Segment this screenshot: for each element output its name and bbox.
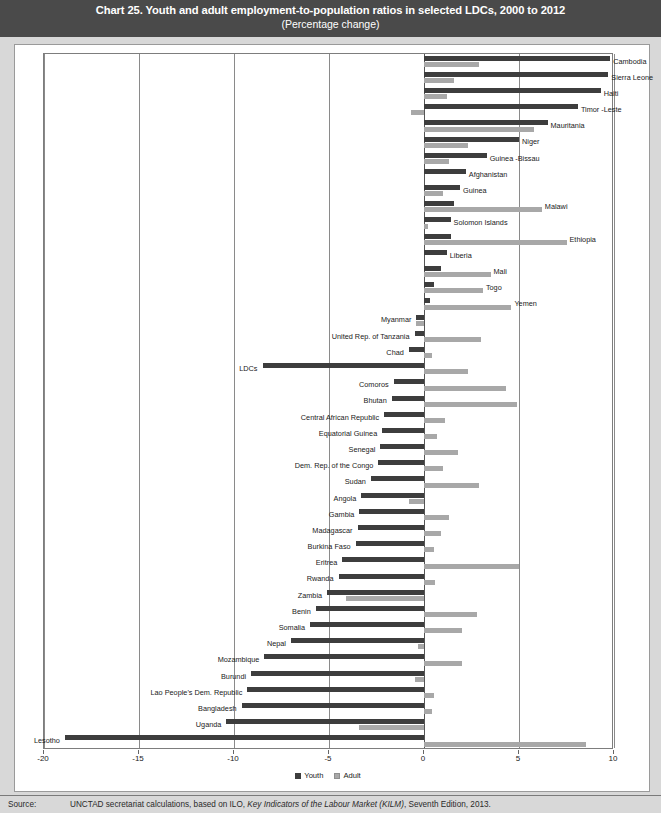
- plot-wrapper: CambodiaSierra LeoneHaitiTimor -LesteMau…: [43, 53, 631, 765]
- row-label: Cambodia: [613, 54, 646, 69]
- bar-youth: [424, 185, 460, 190]
- bar-row: United Rep. of Tanzania: [44, 329, 612, 345]
- bar-row: Yemen: [44, 297, 612, 313]
- bar-adult: [424, 369, 468, 374]
- source-text-italic: Key Indicators of the Labour Market (KIL…: [247, 800, 404, 809]
- bar-youth: [356, 541, 424, 546]
- bar-row: Burundi: [44, 669, 612, 685]
- bar-row: Mauritania: [44, 119, 612, 135]
- bar-youth: [409, 347, 424, 352]
- row-label: Myanmar: [381, 312, 411, 327]
- row-label: Senegal: [349, 442, 376, 457]
- bar-adult: [424, 337, 481, 342]
- bar-row: Guinea: [44, 183, 612, 199]
- row-label: Haiti: [604, 86, 619, 101]
- bar-adult: [424, 143, 468, 148]
- bar-youth: [247, 687, 424, 692]
- row-label: Comoros: [359, 377, 389, 392]
- chart-title: Chart 25. Youth and adult employment-to-…: [0, 3, 661, 17]
- row-label: Angola: [334, 491, 357, 506]
- bar-youth: [380, 444, 424, 449]
- bar-row: Bangladesh: [44, 701, 612, 717]
- row-label: Rwanda: [307, 571, 334, 586]
- bar-adult: [424, 353, 432, 358]
- bar-row: Comoros: [44, 378, 612, 394]
- bar-adult: [424, 62, 479, 67]
- chart-legend: Youth Adult: [43, 771, 613, 780]
- bar-row: Dem. Rep. of the Congo: [44, 459, 612, 475]
- source-text-before: UNCTAD secretariat calculations, based o…: [70, 800, 247, 809]
- bar-adult: [424, 547, 434, 552]
- bar-row: Afghanistan: [44, 167, 612, 183]
- bar-rows: CambodiaSierra LeoneHaitiTimor -LesteMau…: [44, 54, 612, 748]
- source-divider: [0, 795, 661, 796]
- bar-adult: [416, 321, 424, 326]
- bar-adult: [424, 159, 449, 164]
- bar-youth: [424, 298, 430, 303]
- bar-adult: [424, 386, 506, 391]
- bar-adult: [424, 661, 462, 666]
- bar-row: Niger: [44, 135, 612, 151]
- plot-area: CambodiaSierra LeoneHaitiTimor -LesteMau…: [43, 53, 613, 749]
- bar-row: Senegal: [44, 442, 612, 458]
- bar-adult: [424, 580, 435, 585]
- bar-adult: [424, 240, 567, 245]
- gridline: [614, 54, 615, 748]
- chart-frame: CambodiaSierra LeoneHaitiTimor -LesteMau…: [14, 44, 650, 792]
- row-label: Benin: [292, 604, 311, 619]
- row-label: Burundi: [221, 669, 246, 684]
- x-axis-tick-label: -15: [132, 754, 144, 763]
- bar-youth: [371, 476, 424, 481]
- bar-adult: [424, 628, 462, 633]
- bar-youth: [264, 654, 424, 659]
- bar-row: Mali: [44, 264, 612, 280]
- bar-adult: [424, 78, 454, 83]
- bar-youth: [378, 460, 424, 465]
- bar-youth: [382, 428, 424, 433]
- bar-row: Central African Republic: [44, 410, 612, 426]
- row-label: Chad: [386, 345, 403, 360]
- row-label: Equatorial Guinea: [319, 426, 377, 441]
- bar-youth: [251, 671, 424, 676]
- row-label: Uganda: [196, 717, 222, 732]
- bar-youth: [424, 72, 608, 77]
- source-note: Source:UNCTAD secretariat calculations, …: [8, 800, 658, 809]
- bar-row: LDCs: [44, 362, 612, 378]
- bar-youth: [327, 590, 424, 595]
- bar-youth: [242, 703, 424, 708]
- bar-adult: [424, 709, 432, 714]
- bar-youth: [339, 574, 425, 579]
- bar-youth: [424, 104, 578, 109]
- bar-youth: [384, 412, 424, 417]
- bar-row: Lesotho: [44, 734, 612, 750]
- bar-row: Angola: [44, 491, 612, 507]
- bar-adult: [424, 564, 519, 569]
- row-label: Zambia: [298, 588, 322, 603]
- row-label: Togo: [486, 280, 502, 295]
- bar-adult: [424, 531, 441, 536]
- row-label: Gambia: [329, 507, 355, 522]
- bar-adult: [424, 483, 479, 488]
- bar-row: Togo: [44, 281, 612, 297]
- chart-title-banner: Chart 25. Youth and adult employment-to-…: [0, 0, 661, 37]
- row-label: LDCs: [239, 361, 257, 376]
- legend-label-youth: Youth: [304, 771, 323, 780]
- row-label: Eritrea: [316, 555, 338, 570]
- x-axis-tick-label: 10: [609, 754, 618, 763]
- bar-row: Mozambique: [44, 653, 612, 669]
- bar-row: Bhutan: [44, 394, 612, 410]
- bar-adult: [424, 288, 483, 293]
- x-axis: -20-15-10-50510: [43, 750, 613, 766]
- bar-youth: [424, 282, 434, 287]
- bar-adult: [424, 693, 434, 698]
- bar-row: Rwanda: [44, 572, 612, 588]
- chart-page: Chart 25. Youth and adult employment-to-…: [0, 0, 661, 813]
- bar-row: Gambia: [44, 507, 612, 523]
- bar-adult: [424, 224, 428, 229]
- bar-row: Sudan: [44, 475, 612, 491]
- bar-row: Eritrea: [44, 556, 612, 572]
- bar-youth: [424, 217, 451, 222]
- bar-adult: [424, 191, 443, 196]
- x-axis-tick-label: -10: [227, 754, 239, 763]
- bar-adult: [424, 272, 491, 277]
